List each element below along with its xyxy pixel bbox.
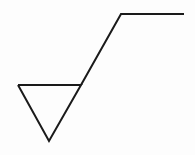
symbol-extended-leg xyxy=(81,14,184,85)
surface-finish-symbol-icon xyxy=(0,0,195,155)
diagram-canvas xyxy=(0,0,195,155)
symbol-triangle xyxy=(18,85,81,141)
